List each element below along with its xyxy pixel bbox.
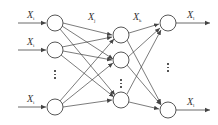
label-output-edge: Xk xyxy=(133,12,142,26)
label-input-3: Xi xyxy=(27,94,35,108)
hidden-node-1 xyxy=(113,27,129,43)
nodes xyxy=(47,15,176,118)
input-node-2 xyxy=(47,42,63,58)
input-ellipsis-icon xyxy=(54,70,56,79)
label-final-2: Xl xyxy=(187,97,195,111)
hidden-to-output-edges xyxy=(127,24,161,109)
label-input-1: Xi xyxy=(27,10,35,24)
output-node-1 xyxy=(160,15,176,31)
input-to-hidden-edges xyxy=(60,23,115,107)
hidden-node-2 xyxy=(113,52,129,68)
input-node-1 xyxy=(47,15,63,31)
label-input-2: Xi xyxy=(27,37,35,51)
label-hidden-edge: Xj xyxy=(88,12,96,26)
output-ellipsis-icon xyxy=(167,63,169,72)
label-final-1: Xl xyxy=(187,10,195,24)
hidden-node-3 xyxy=(113,92,129,108)
input-node-3 xyxy=(47,99,63,115)
output-node-2 xyxy=(160,102,176,118)
hidden-ellipsis-icon xyxy=(120,79,122,88)
